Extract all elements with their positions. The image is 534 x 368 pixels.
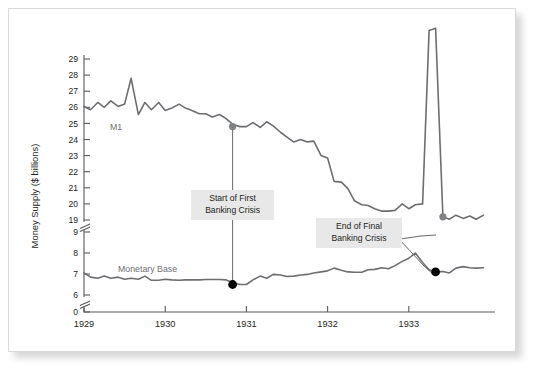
annotation-end-final-banking-crisis: End of Final Banking Crisis — [316, 218, 436, 274]
y-axis-tick-labels: 292827262524232221201998760 — [68, 54, 78, 317]
y-tick-label: 22 — [68, 167, 78, 177]
y-tick-label: 27 — [68, 86, 78, 96]
chart-series — [84, 28, 484, 284]
y-tick-label: 23 — [68, 151, 78, 161]
annotation-leader-upper — [400, 235, 436, 239]
annotation-line-1: End of Final — [336, 221, 382, 231]
x-tick-label: 1932 — [317, 319, 337, 329]
data-point-marker — [228, 280, 237, 289]
series-label-m1: M1 — [110, 122, 122, 132]
y-tick-label: 28 — [68, 70, 78, 80]
x-tick-label: 1933 — [399, 319, 419, 329]
annotation-start-first-banking-crisis: Start of First Banking Crisis — [191, 127, 274, 285]
y-tick-label: 21 — [68, 183, 78, 193]
annotation-line-2: Banking Crisis — [205, 205, 260, 215]
y-tick-label: 25 — [68, 119, 78, 129]
annotation-line-2: Banking Crisis — [332, 233, 387, 243]
y-tick-label: 26 — [68, 102, 78, 112]
y-tick-label: 0 — [73, 307, 78, 317]
y-tick-label: 7 — [73, 269, 78, 279]
x-tick-label: 1930 — [155, 319, 175, 329]
chart-canvas: 292827262524232221201998760 192919301931… — [0, 0, 534, 368]
y-tick-label: 9 — [73, 227, 78, 237]
series-path-m1 — [84, 28, 484, 219]
data-point-marker — [439, 213, 446, 220]
x-tick-label: 1931 — [236, 319, 256, 329]
y-tick-label: 6 — [73, 290, 78, 300]
y-axis-title: Money Supply ($ billions) — [29, 144, 40, 249]
x-tick-label: 1929 — [74, 319, 94, 329]
data-point-marker — [229, 123, 236, 130]
y-tick-label: 24 — [68, 135, 78, 145]
series-label-monetary-base: Monetary Base — [118, 264, 177, 274]
chart-figure: 292827262524232221201998760 192919301931… — [0, 0, 534, 368]
data-point-marker — [431, 268, 440, 277]
y-tick-label: 19 — [68, 215, 78, 225]
y-tick-label: 20 — [68, 199, 78, 209]
y-tick-label: 8 — [73, 248, 78, 258]
annotation-line-1: Start of First — [209, 193, 256, 203]
y-tick-label: 29 — [68, 54, 78, 64]
x-axis-tick-labels: 19291930193119321933 — [74, 319, 419, 329]
